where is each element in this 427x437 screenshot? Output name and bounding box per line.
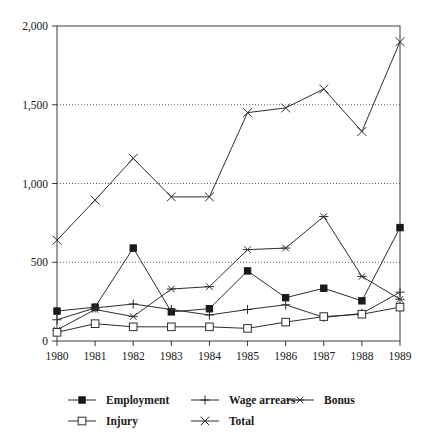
series-line <box>57 42 400 240</box>
marker-plus <box>395 288 404 297</box>
marker-plus <box>243 305 252 314</box>
legend-item-total[interactable]: Total <box>191 415 254 427</box>
legend-item-employment[interactable]: Employment <box>68 394 169 407</box>
legend-item-bonus[interactable]: Bonus <box>286 394 355 406</box>
legend-label: Total <box>229 415 254 427</box>
data-point <box>397 224 403 230</box>
legend-label: Injury <box>106 415 138 428</box>
data-point <box>320 313 328 321</box>
marker-open-square <box>53 329 61 337</box>
data-point <box>282 294 288 300</box>
series-line <box>57 228 400 312</box>
y-tick-label-500: 500 <box>31 256 49 268</box>
data-point <box>53 329 61 337</box>
marker-cross <box>129 154 138 163</box>
x-tick-label-1982: 1982 <box>122 350 145 362</box>
marker-open-square <box>282 318 290 326</box>
data-point <box>281 300 290 309</box>
data-series-group <box>52 37 404 336</box>
data-point <box>243 246 252 253</box>
y-tick-label-0: 0 <box>42 335 48 347</box>
marker-plus <box>281 300 290 309</box>
data-point <box>129 299 138 308</box>
data-point <box>168 323 176 331</box>
marker-filled-square <box>321 285 327 291</box>
data-point <box>282 318 290 326</box>
marker-filled-square <box>397 224 403 230</box>
x-tick-label-1987: 1987 <box>312 350 335 362</box>
legend-item-wage-arrears[interactable]: Wage arrears <box>191 394 296 407</box>
marker-asterisk <box>243 246 252 253</box>
marker-filled-square <box>79 397 85 403</box>
data-point <box>396 303 404 311</box>
line-chart: 05001,0001,5002,000 19801981198219831984… <box>0 0 427 437</box>
legend-item-injury[interactable]: Injury <box>68 415 138 428</box>
data-point <box>91 320 99 328</box>
data-point <box>129 154 138 163</box>
series-total <box>53 37 405 244</box>
marker-open-square <box>168 323 176 331</box>
data-point <box>243 305 252 314</box>
x-tick-label-1984: 1984 <box>198 350 221 362</box>
series-wage-arrears <box>52 288 404 325</box>
data-point <box>129 323 137 331</box>
x-tick-label-1985: 1985 <box>236 350 259 362</box>
data-point <box>206 323 214 331</box>
data-point <box>321 285 327 291</box>
marker-open-square <box>78 417 86 425</box>
marker-asterisk <box>205 283 214 290</box>
series-line <box>57 217 400 330</box>
marker-filled-square <box>359 298 365 304</box>
marker-open-square <box>206 323 214 331</box>
chart-figure: 05001,0001,5002,000 19801981198219831984… <box>0 0 427 437</box>
y-tick-label-2000: 2,000 <box>22 20 48 33</box>
y-tick-label-1500: 1,500 <box>22 99 48 112</box>
marker-filled-square <box>54 308 60 314</box>
marker-open-square <box>91 320 99 328</box>
marker-plus <box>200 395 209 404</box>
data-point <box>359 298 365 304</box>
data-point <box>52 315 61 324</box>
data-point <box>358 310 366 318</box>
marker-open-square <box>320 313 328 321</box>
data-point <box>244 325 252 333</box>
marker-filled-square <box>130 245 136 251</box>
series-line <box>57 307 400 332</box>
chart-legend: EmploymentWage arrearsBonusInjuryTotal <box>68 394 355 428</box>
legend-label: Bonus <box>324 394 355 406</box>
x-tick-label-1989: 1989 <box>389 350 412 362</box>
data-point <box>205 283 214 290</box>
marker-cross <box>319 85 328 94</box>
series-injury <box>53 303 404 336</box>
data-point <box>244 268 250 274</box>
marker-cross <box>357 127 366 136</box>
marker-open-square <box>396 303 404 311</box>
marker-cross <box>91 196 100 205</box>
x-tick-label-1986: 1986 <box>274 350 297 362</box>
marker-open-square <box>244 325 252 333</box>
data-point <box>319 85 328 94</box>
marker-filled-square <box>282 294 288 300</box>
data-point <box>54 308 60 314</box>
x-axis-ticks: 1980198119821983198419851986198719881989 <box>46 341 412 362</box>
x-tick-label-1988: 1988 <box>350 350 373 362</box>
y-axis-ticks: 05001,0001,5002,000 <box>22 20 57 347</box>
series-employment <box>54 224 403 315</box>
gridlines <box>57 105 400 263</box>
marker-open-square <box>358 310 366 318</box>
y-tick-label-1000: 1,000 <box>22 178 48 191</box>
legend-label: Wage arrears <box>229 394 296 407</box>
marker-plus <box>52 315 61 324</box>
data-point <box>130 245 136 251</box>
marker-filled-square <box>244 268 250 274</box>
data-point <box>91 196 100 205</box>
marker-open-square <box>129 323 137 331</box>
x-tick-label-1983: 1983 <box>160 350 183 362</box>
marker-plus <box>129 299 138 308</box>
x-tick-label-1981: 1981 <box>84 350 107 362</box>
x-tick-label-1980: 1980 <box>46 350 69 362</box>
marker-asterisk <box>295 397 304 404</box>
data-point <box>357 127 366 136</box>
data-point <box>395 288 404 297</box>
legend-label: Employment <box>106 394 169 407</box>
